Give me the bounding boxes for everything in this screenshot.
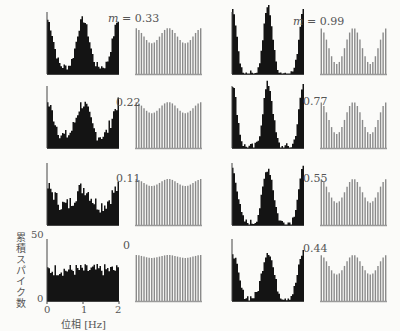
phase-histogram — [47, 97, 119, 148]
histogram-grid — [0, 0, 400, 331]
panel-5 — [232, 81, 387, 149]
x-tick-0: 0 — [44, 305, 50, 315]
panel-label-m033: m = 0.33 — [108, 13, 159, 24]
panel-label-022: 0.22 — [116, 97, 141, 108]
x-axis-label: 位相 [Hz] — [61, 320, 106, 330]
phase-histogram — [47, 264, 119, 301]
y-tick-50: 50 — [31, 230, 44, 240]
phase-histogram — [47, 181, 119, 225]
phase-histogram — [232, 166, 304, 225]
phase-histogram — [232, 81, 304, 148]
panel-label-077: 0.77 — [303, 96, 328, 107]
figure: m = 0.33 0.22 0.11 0 m = 0.99 0.77 0.55 … — [0, 0, 400, 331]
y-tick-0: 0 — [37, 294, 43, 304]
x-tick-1: 1 — [81, 305, 87, 315]
panel-label-044: 0.44 — [303, 243, 328, 254]
phase-histogram — [232, 250, 304, 301]
y-axis-label: 累積スパイク数 — [10, 232, 24, 309]
panel-label-m099: m = 0.99 — [293, 16, 344, 27]
panel-label-0: 0 — [123, 240, 130, 251]
panel-label-055: 0.55 — [303, 173, 328, 184]
panel-label-011: 0.11 — [116, 173, 141, 184]
m-symbol: m — [108, 12, 118, 25]
x-tick-2: 2 — [115, 305, 121, 315]
m-symbol: m — [293, 15, 303, 28]
